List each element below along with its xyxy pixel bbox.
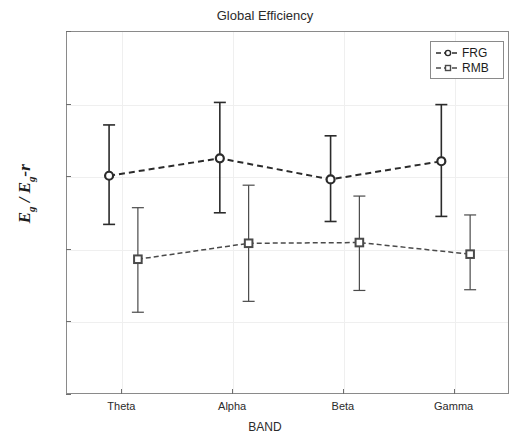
data-point-marker-circle[interactable]	[437, 157, 445, 165]
legend-item-rmb[interactable]: RMB	[431, 60, 503, 75]
y-axis-label-mid: / E	[15, 182, 34, 207]
chart-figure: Global Efficiency 0.50.60.70.80.91 Theta…	[0, 0, 530, 441]
series-rmb	[132, 185, 476, 312]
x-axis-tick-mark	[343, 389, 344, 394]
chart-title: Global Efficiency	[0, 8, 530, 23]
legend-marker-square-icon	[435, 62, 461, 74]
x-axis-tick-label: Alpha	[218, 400, 246, 412]
legend-marker-circle-icon	[435, 47, 461, 59]
series-frg	[103, 102, 447, 224]
x-axis-label: BAND	[0, 420, 530, 434]
plot-area	[66, 31, 509, 394]
y-axis-label-sub2: g	[25, 176, 37, 182]
data-point-marker-circle[interactable]	[105, 172, 113, 180]
data-point-marker-square[interactable]	[134, 255, 142, 263]
y-axis-tick-mark	[66, 104, 71, 105]
y-axis-tick-mark	[66, 321, 71, 322]
legend-label: RMB	[462, 61, 489, 75]
series-line-frg	[109, 158, 441, 179]
data-point-marker-square[interactable]	[245, 239, 253, 247]
x-axis-tick-label: Beta	[332, 400, 355, 412]
x-axis-tick-label: Theta	[107, 400, 135, 412]
y-axis-label: Eg / Eg-r	[15, 124, 36, 264]
legend-label: FRG	[462, 46, 487, 60]
data-point-marker-square[interactable]	[356, 239, 364, 247]
y-axis-tick-mark	[66, 394, 71, 395]
x-axis-tick-mark	[121, 389, 122, 394]
y-axis-label-eg1: E	[15, 212, 34, 223]
series-line-rmb	[138, 243, 470, 260]
y-axis-tick-mark	[66, 31, 71, 32]
legend[interactable]: FRGRMB	[430, 41, 504, 79]
data-point-marker-circle[interactable]	[216, 154, 224, 162]
data-series-layer	[67, 32, 510, 395]
y-axis-tick-mark	[66, 176, 71, 177]
y-axis-tick-mark	[66, 249, 71, 250]
x-axis-tick-mark	[232, 389, 233, 394]
data-point-marker-square[interactable]	[466, 250, 474, 258]
legend-item-frg[interactable]: FRG	[431, 45, 503, 60]
y-axis-label-sub1: g	[25, 206, 37, 212]
data-point-marker-circle[interactable]	[327, 175, 335, 183]
x-axis-tick-mark	[454, 389, 455, 394]
x-axis-tick-label: Gamma	[434, 400, 473, 412]
y-axis-label-tail: -r	[15, 164, 34, 176]
